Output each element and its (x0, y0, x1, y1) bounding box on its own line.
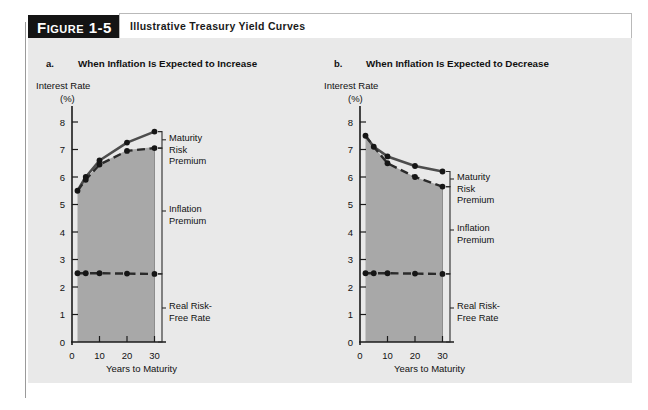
chart-b-bracket-inflation-premium: Inflation Premium (457, 223, 494, 246)
chart-a-xtick-0: 0 (69, 350, 74, 361)
chart-a-ytick-2: 2 (60, 282, 65, 293)
chart-a-ytick-7: 7 (60, 144, 65, 155)
chart-b-plot: 0 1 2 3 4 5 6 7 8 (316, 38, 618, 383)
chart-a-x-axis-label: Years to Maturity (106, 363, 177, 374)
chart-a-bracket-real-risk-free-rate: Real Risk- Free Rate (169, 301, 212, 324)
chart-b-shaded-area (366, 136, 443, 342)
chart-a-ytick-8: 8 (60, 117, 65, 128)
chart-a-ytick-6: 6 (60, 172, 65, 183)
chart-b-xtick-20: 20 (410, 350, 421, 361)
chart-a-rrf-line2: Free Rate (169, 313, 212, 325)
chart-b-ytick-2: 2 (348, 282, 353, 293)
chart-a-y-tick-labels: 0 1 2 3 4 5 6 7 8 (60, 117, 65, 348)
chart-b-ip-line1: Inflation (457, 223, 494, 235)
chart-b-ytick-4: 4 (348, 227, 353, 238)
chart-a-ytick-4: 4 (60, 227, 65, 238)
chart-b-mrp-line1: Maturity (457, 172, 494, 184)
chart-b-bracket-real-risk-free-rate: Real Risk- Free Rate (457, 301, 500, 324)
chart-a-rrf-line1: Real Risk- (169, 301, 212, 313)
figure-number-label: Figure 1-5 (37, 20, 112, 35)
chart-b-brackets (446, 172, 454, 343)
chart-a-xtick-30: 30 (149, 350, 160, 361)
chart-b-ytick-0: 0 (348, 337, 353, 348)
chart-a-bracket-inflation-premium: Inflation Premium (169, 204, 206, 227)
chart-a-mrp-line3: Premium (169, 156, 206, 168)
page-left-rule (25, 22, 26, 398)
chart-b-mrp-line3: Premium (457, 195, 494, 207)
chart-b-ytick-3: 3 (348, 254, 353, 265)
chart-b-ytick-5: 5 (348, 199, 353, 210)
chart-b-ip-line2: Premium (457, 235, 494, 247)
figure-title-box: Illustrative Treasury Yield Curves (119, 13, 632, 39)
chart-a-brackets (158, 132, 166, 342)
chart-b-xtick-10: 10 (382, 350, 393, 361)
chart-a-x-tick-labels: 0 10 20 30 (69, 350, 159, 361)
chart-b-ytick-1: 1 (348, 309, 353, 320)
figure-page: Figure 1-5 Illustrative Treasury Yield C… (0, 0, 648, 410)
chart-b-rrf-line2: Free Rate (457, 313, 500, 325)
chart-a-ip-line1: Inflation (169, 204, 206, 216)
chart-b-svg: 0 1 2 3 4 5 6 7 8 (316, 38, 618, 383)
chart-a-ytick-3: 3 (60, 254, 65, 265)
chart-b-mrp-line2: Risk (457, 184, 494, 196)
chart-b-ytick-8: 8 (348, 117, 353, 128)
chart-b-x-tick-labels: 0 10 20 30 (357, 350, 447, 361)
chart-b-bracket-maturity-risk-premium: Maturity Risk Premium (457, 172, 494, 207)
chart-a-mrp-line2: Risk (169, 145, 206, 157)
chart-b-xtick-0: 0 (357, 350, 362, 361)
chart-b-y-ticks (360, 122, 366, 315)
chart-a-ytick-1: 1 (60, 309, 65, 320)
figure-title: Illustrative Treasury Yield Curves (130, 20, 305, 32)
figure-panel: a. When Inflation Is Expected to Increas… (28, 38, 632, 383)
chart-a-y-ticks (72, 122, 78, 315)
chart-b-y-tick-labels: 0 1 2 3 4 5 6 7 8 (348, 117, 353, 348)
chart-a-bracket-maturity-risk-premium: Maturity Risk Premium (169, 133, 206, 168)
chart-b-ytick-7: 7 (348, 144, 353, 155)
chart-a-xtick-20: 20 (122, 350, 133, 361)
chart-a-xtick-10: 10 (94, 350, 105, 361)
chart-b-x-axis-label: Years to Maturity (394, 363, 465, 374)
chart-a-ytick-0: 0 (60, 337, 65, 348)
chart-b-rrf-line1: Real Risk- (457, 301, 500, 313)
chart-a-ip-line2: Premium (169, 216, 206, 228)
chart-b: b. When Inflation Is Expected to Decreas… (316, 38, 618, 383)
chart-a-ytick-5: 5 (60, 199, 65, 210)
chart-a: a. When Inflation Is Expected to Increas… (28, 38, 330, 383)
chart-b-xtick-30: 30 (437, 350, 448, 361)
figure-number-badge: Figure 1-5 (28, 15, 119, 39)
chart-a-mrp-line1: Maturity (169, 133, 206, 145)
chart-b-ytick-6: 6 (348, 172, 353, 183)
